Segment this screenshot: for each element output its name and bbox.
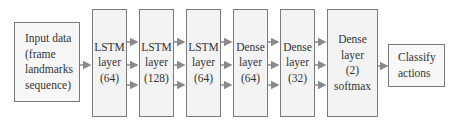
classify-actions-box: Classify actions xyxy=(388,44,445,87)
layer-word: layer xyxy=(98,55,121,71)
layer-type: Dense xyxy=(283,40,312,56)
layer-type: Dense xyxy=(236,40,265,56)
dense-layer-2-softmax-box: Dense layer (2) softmax xyxy=(327,9,378,117)
layer-units: (32) xyxy=(288,71,307,87)
layer-word: layer xyxy=(286,55,309,71)
layer-word: layer xyxy=(192,55,215,71)
lstm-layer-64b-box: LSTM layer (64) xyxy=(186,9,221,117)
output-line: actions xyxy=(398,66,431,82)
layer-word: layer xyxy=(145,55,168,71)
input-data-box: Input data (frame landmarks sequence) xyxy=(14,22,80,102)
layer-word: layer xyxy=(341,48,364,64)
layer-type: LSTM xyxy=(188,40,219,56)
layer-units: (64) xyxy=(194,71,213,87)
lstm-layer-64-box: LSTM layer (64) xyxy=(92,9,127,117)
lstm-layer-128-box: LSTM layer (128) xyxy=(139,9,174,117)
input-line: Input data xyxy=(25,31,71,47)
dense-layer-32-box: Dense layer (32) xyxy=(280,9,315,117)
layer-activation: softmax xyxy=(334,79,371,95)
dense-layer-64-box: Dense layer (64) xyxy=(233,9,268,117)
input-line: landmarks xyxy=(25,62,73,78)
input-line: sequence) xyxy=(25,78,71,94)
input-line: (frame xyxy=(25,47,56,63)
layer-type: LSTM xyxy=(141,40,172,56)
layer-type: Dense xyxy=(338,32,367,48)
layer-type: LSTM xyxy=(94,40,125,56)
output-line: Classify xyxy=(398,50,436,66)
layer-units: (64) xyxy=(241,71,260,87)
layer-units: (2) xyxy=(346,63,359,79)
layer-units: (64) xyxy=(100,71,119,87)
layer-word: layer xyxy=(239,55,262,71)
layer-units: (128) xyxy=(144,71,169,87)
